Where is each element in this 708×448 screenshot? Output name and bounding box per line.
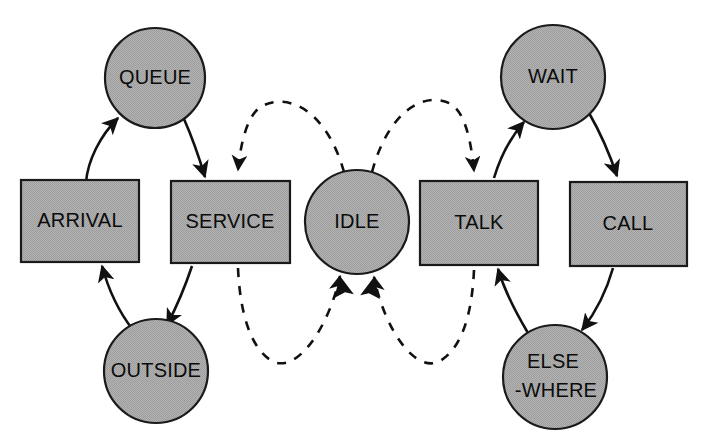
edge-wait-to-call — [589, 113, 617, 176]
edge-talk-to-idle — [374, 270, 474, 363]
node-outside-label: OUTSIDE — [111, 359, 201, 381]
edge-service-to-idle — [238, 268, 340, 363]
node-wait-label: WAIT — [528, 65, 578, 87]
node-talk[interactable]: TALK — [420, 181, 538, 265]
arrowhead-service-to-idle — [329, 274, 353, 299]
edge-idle-to-service — [238, 102, 344, 172]
node-call-label: CALL — [603, 212, 654, 234]
state-diagram: QUEUE WAIT IDLE OUTSIDE ELSE -WHERE — [0, 0, 708, 448]
arrowhead-talk-to-idle — [360, 275, 384, 300]
node-talk-label: TALK — [454, 211, 504, 233]
edge-call-to-elsewhere — [582, 268, 613, 330]
node-wait[interactable]: WAIT — [501, 25, 605, 129]
edge-arrowheads-overlay — [329, 274, 384, 300]
diagram-canvas: QUEUE WAIT IDLE OUTSIDE ELSE -WHERE — [0, 0, 708, 448]
node-outside[interactable]: OUTSIDE — [104, 319, 208, 423]
node-arrival[interactable]: ARRIVAL — [21, 180, 139, 262]
node-queue-label: QUEUE — [119, 66, 191, 88]
node-elsewhere-shape — [503, 325, 607, 429]
node-elsewhere[interactable]: ELSE -WHERE — [503, 325, 607, 429]
node-service-label: SERVICE — [186, 210, 275, 232]
node-idle[interactable]: IDLE — [305, 170, 409, 274]
node-arrival-label: ARRIVAL — [37, 209, 123, 231]
edge-queue-to-service — [184, 119, 205, 177]
node-elsewhere-label-line2: -WHERE — [515, 379, 597, 401]
node-call[interactable]: CALL — [570, 182, 687, 266]
edge-outside-to-arrival — [102, 266, 133, 330]
node-queue[interactable]: QUEUE — [105, 28, 205, 128]
edge-arrival-to-queue — [86, 118, 118, 182]
node-idle-label: IDLE — [334, 210, 379, 232]
nodes-layer: QUEUE WAIT IDLE OUTSIDE ELSE -WHERE — [21, 25, 687, 429]
edge-service-to-outside — [167, 266, 192, 325]
edge-elsewhere-to-talk — [498, 269, 528, 333]
edge-talk-to-wait — [494, 122, 524, 178]
edge-idle-to-talk — [372, 100, 474, 172]
node-elsewhere-label-line1: ELSE — [527, 350, 579, 372]
node-service[interactable]: SERVICE — [171, 181, 290, 263]
